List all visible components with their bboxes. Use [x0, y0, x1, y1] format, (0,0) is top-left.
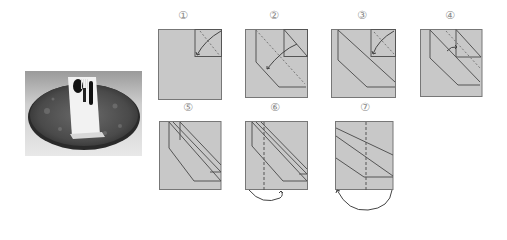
step-1-diagram	[159, 30, 222, 100]
step-5-diagram	[160, 122, 222, 190]
step-3-diagram	[332, 30, 396, 98]
step-7-diagram	[336, 122, 394, 211]
step-6-diagram	[246, 122, 308, 201]
step-4-diagram	[421, 30, 483, 97]
step-2-diagram	[246, 30, 308, 98]
